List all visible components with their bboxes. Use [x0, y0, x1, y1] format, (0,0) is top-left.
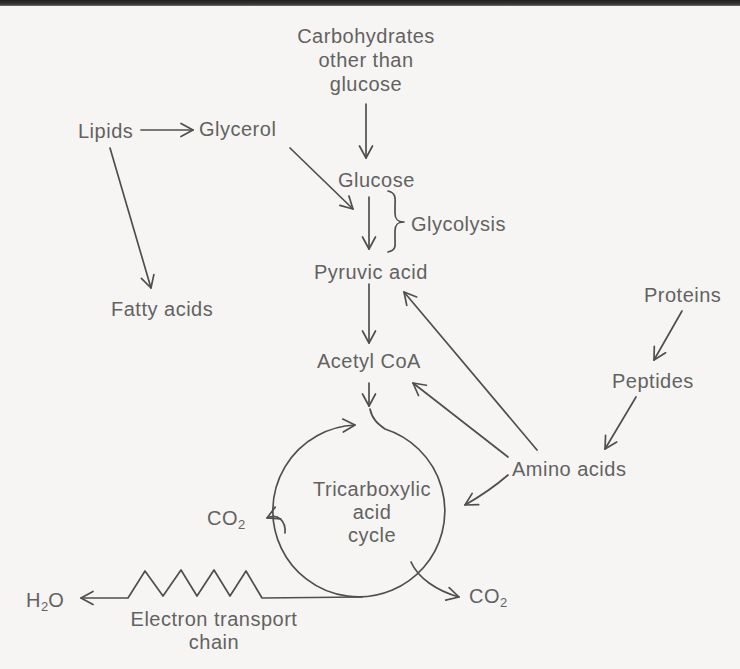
- metabolic-pathway-diagram: Carbohydrates other than glucose Lipids …: [0, 0, 740, 669]
- tca-line1: Tricarboxylic: [313, 478, 431, 501]
- h2o-base: H: [26, 589, 41, 611]
- h2o-tail: O: [48, 589, 64, 611]
- carbohydrates-line2: other than: [297, 48, 435, 72]
- node-tca-cycle: Tricarboxylic acid cycle: [313, 478, 431, 547]
- node-co2-right: CO2: [469, 584, 507, 615]
- etc-line1: Electron transport: [131, 608, 298, 631]
- node-co2-left: CO2: [207, 506, 245, 537]
- arrow-amino-to-acetyl: [413, 383, 508, 457]
- node-peptides: Peptides: [612, 369, 694, 393]
- arrow-amino-to-cycle: [465, 475, 508, 505]
- node-acetyl-coa: Acetyl CoA: [317, 349, 421, 373]
- label-electron-transport-chain: Electron transport chain: [131, 608, 298, 654]
- node-h2o: H2O: [26, 588, 64, 619]
- node-proteins: Proteins: [644, 283, 721, 307]
- etc-line2: chain: [131, 631, 298, 654]
- diagram-canvas: [0, 0, 740, 669]
- tca-line2: acid: [313, 501, 431, 524]
- arrow-lipids-to-fatty-acids: [110, 148, 151, 288]
- node-fatty-acids: Fatty acids: [111, 297, 213, 321]
- carbohydrates-line3: glucose: [297, 72, 435, 96]
- label-glycolysis: Glycolysis: [411, 212, 506, 236]
- arrow-proteins-to-peptides: [654, 311, 682, 360]
- arrow-cycle-to-co2-left: [267, 516, 285, 533]
- node-glycerol: Glycerol: [199, 117, 276, 141]
- arrow-cycle-to-co2-right: [411, 562, 459, 597]
- co2-left-base: CO: [207, 507, 238, 529]
- node-lipids: Lipids: [78, 119, 133, 143]
- arrow-amino-to-pyruvic: [404, 292, 537, 450]
- node-pyruvic-acid: Pyruvic acid: [314, 260, 428, 284]
- co2-right-base: CO: [469, 585, 500, 607]
- node-carbohydrates: Carbohydrates other than glucose: [297, 24, 435, 96]
- node-amino-acids: Amino acids: [512, 457, 626, 481]
- electron-transport-chain-zigzag-arrow: [81, 570, 362, 598]
- arrow-peptides-to-amino: [605, 397, 636, 449]
- node-glucose: Glucose: [338, 168, 415, 192]
- tca-line3: cycle: [313, 524, 431, 547]
- co2-right-subscript: 2: [500, 595, 507, 610]
- glycolysis-brace: [388, 191, 404, 252]
- carbohydrates-line1: Carbohydrates: [297, 24, 435, 48]
- co2-left-subscript: 2: [238, 517, 245, 532]
